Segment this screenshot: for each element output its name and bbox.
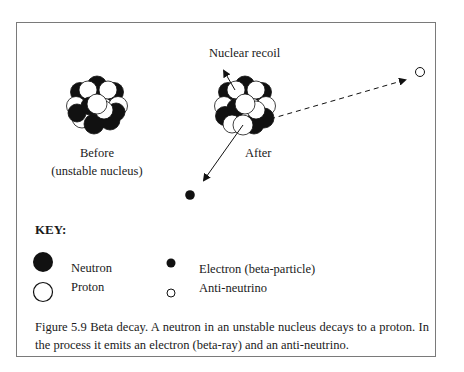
figure-caption: Figure 5.9 Beta decay. A neutron in an u… bbox=[35, 318, 429, 354]
key-label-antineutrino: Anti-neutrino bbox=[199, 281, 267, 295]
nuclear-recoil-label: Nuclear recoil bbox=[209, 46, 280, 60]
unstable-nucleus-label: (unstable nucleus) bbox=[42, 164, 152, 178]
after-nucleus-icon bbox=[215, 76, 276, 135]
neutron-key-icon bbox=[33, 252, 53, 272]
before-nucleus-icon bbox=[67, 76, 128, 134]
before-label: Before bbox=[47, 146, 147, 160]
antineutrino-key-icon bbox=[167, 289, 175, 297]
key-label-neutron: Neutron bbox=[71, 261, 112, 275]
key-label-proton: Proton bbox=[71, 280, 104, 294]
electron-key-icon bbox=[167, 259, 176, 268]
electron-trajectory-arrow-icon bbox=[204, 125, 243, 180]
emitted-electron-icon bbox=[185, 190, 195, 200]
key-label-electron: Electron (beta-particle) bbox=[199, 262, 315, 276]
proton-key-icon bbox=[34, 283, 53, 302]
antineutrino-trajectory-arrow-icon bbox=[270, 80, 405, 119]
after-label: After bbox=[245, 146, 271, 160]
key-title: KEY: bbox=[35, 222, 66, 238]
emitted-antineutrino-icon bbox=[416, 68, 425, 77]
